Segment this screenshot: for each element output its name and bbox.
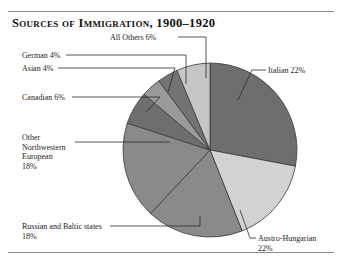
pie-slices <box>123 63 297 237</box>
label-asian: Asian 4% <box>22 64 53 74</box>
bottom-divider-rule <box>8 252 334 253</box>
label-italian: Italian 22% <box>268 66 305 76</box>
pie-slice-italian[interactable] <box>210 63 297 166</box>
label-canadian: Canadian 6% <box>22 93 65 103</box>
label-austro-hungarian: Austro-Hungarian 22% <box>258 234 316 253</box>
label-german: German 4% <box>22 51 60 61</box>
label-other-northwestern-european: Other Northwestern European 18% <box>22 133 66 171</box>
label-all-others: All Others 6% <box>110 33 156 43</box>
figure-container: Sources of Immigration, 1900–1920 <box>0 0 342 267</box>
label-russian-and-baltic-states: Russian and Baltic states 18% <box>22 222 102 241</box>
